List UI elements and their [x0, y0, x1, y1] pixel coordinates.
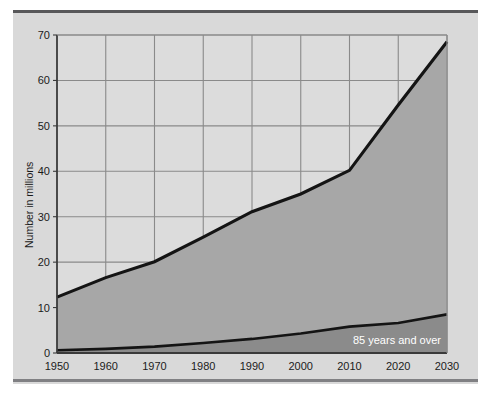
y-tick-label-50: 50: [38, 120, 50, 132]
y-tick-label-0: 0: [44, 347, 50, 359]
x-tick-label-2030: 2030: [435, 360, 459, 372]
x-tick-label-1960: 1960: [94, 360, 118, 372]
y-tick-label-40: 40: [38, 165, 50, 177]
y-axis-title: Number in millions: [23, 162, 35, 248]
series-label-85-and-over: 85 years and over: [353, 334, 441, 346]
area-chart: 010203040506070 195019601970198019902000…: [0, 0, 493, 394]
x-tick-label-1980: 1980: [191, 360, 215, 372]
x-tick-label-2010: 2010: [337, 360, 361, 372]
x-tick-label-1950: 1950: [45, 360, 69, 372]
y-tick-label-20: 20: [38, 256, 50, 268]
x-tick-label-2020: 2020: [386, 360, 410, 372]
x-tick-label-2000: 2000: [289, 360, 313, 372]
y-tick-label-10: 10: [38, 302, 50, 314]
y-tick-label-70: 70: [38, 29, 50, 41]
figure-container: 010203040506070 195019601970198019902000…: [0, 0, 493, 394]
x-tick-label-1970: 1970: [142, 360, 166, 372]
y-axis-tick-labels: 010203040506070: [38, 29, 50, 359]
plot-area-wrapper: 010203040506070 195019601970198019902000…: [0, 0, 493, 394]
x-tick-label-1990: 1990: [240, 360, 264, 372]
x-axis-tick-labels: 195019601970198019902000201020202030: [45, 360, 459, 372]
y-tick-label-30: 30: [38, 211, 50, 223]
y-tick-label-60: 60: [38, 74, 50, 86]
